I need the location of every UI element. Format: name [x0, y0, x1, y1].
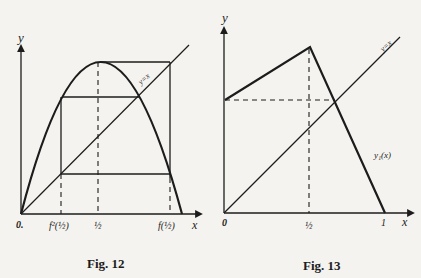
tick-half: ½: [305, 220, 313, 231]
origin-label: 0: [222, 217, 227, 228]
tick-one: 1: [381, 217, 386, 228]
parabola-curve: [21, 62, 182, 214]
diagonal-label: y=x: [378, 38, 394, 54]
y-axis-label: y: [220, 10, 228, 25]
y-axis-label: y: [16, 30, 24, 45]
caption-fig-13: Fig. 13: [303, 258, 341, 273]
figures-canvas: y x y=x 0. f²(½) ½ f(½) Fig. 12 y x y=x …: [0, 0, 421, 278]
tick-f2-half: f²(½): [49, 220, 70, 232]
figure-12: [21, 45, 199, 214]
origin-label: 0.: [16, 219, 24, 230]
figure-13: [224, 30, 411, 213]
diagonal-line: [21, 45, 189, 214]
curve-label: y₁(x): [373, 150, 391, 160]
tick-f-half: f(½): [158, 220, 176, 232]
x-axis-label: x: [191, 218, 198, 232]
caption-fig-12: Fig. 12: [87, 256, 125, 271]
x-axis-label: x: [401, 215, 408, 229]
tick-half: ½: [94, 220, 102, 231]
